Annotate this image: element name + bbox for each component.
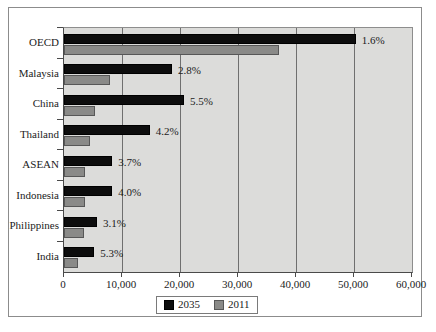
value-axis: 010,00020,00030,00040,00050,00060,000 xyxy=(63,272,412,298)
category-tick-7 xyxy=(57,241,63,242)
x-tick-label-60000: 60,000 xyxy=(396,279,426,290)
category-label-asean: ASEAN xyxy=(7,159,59,170)
chart-legend: 2035 2011 xyxy=(156,296,258,314)
bar-2011-indonesia[interactable] xyxy=(64,197,85,207)
category-label-china: China xyxy=(7,98,59,109)
bar-chart: 1.6%2.8%5.5%4.2%3.7%4.0%3.1%5.3% OECDMal… xyxy=(9,8,423,318)
category-tick-2 xyxy=(57,88,63,89)
bar-annotation-philippines: 3.1% xyxy=(103,218,126,229)
x-tick-0 xyxy=(63,272,64,277)
category-axis: OECDMalaysiaChinaThailandASEANIndonesiaP… xyxy=(9,27,59,271)
category-label-indonesia: Indonesia xyxy=(7,190,59,201)
category-label-malaysia: Malaysia xyxy=(7,68,59,79)
x-tick-label-10000: 10,000 xyxy=(106,279,136,290)
x-tick-label-20000: 20,000 xyxy=(164,279,194,290)
bar-2035-asean[interactable] xyxy=(64,156,112,166)
x-tick-60000 xyxy=(411,272,412,277)
category-label-thailand: Thailand xyxy=(7,129,59,140)
x-tick-label-0: 0 xyxy=(60,279,66,290)
x-tick-40000 xyxy=(295,272,296,277)
bar-2035-indonesia[interactable] xyxy=(64,186,112,196)
bar-2035-malaysia[interactable] xyxy=(64,64,172,74)
category-tick-5 xyxy=(57,180,63,181)
bar-2035-philippines[interactable] xyxy=(64,217,97,227)
category-tick-1 xyxy=(57,58,63,59)
x-tick-30000 xyxy=(237,272,238,277)
gridline-40000 xyxy=(296,28,297,272)
bar-annotation-oecd: 1.6% xyxy=(362,35,385,46)
bar-2035-thailand[interactable] xyxy=(64,125,150,135)
bar-2011-india[interactable] xyxy=(64,258,78,268)
bar-annotation-malaysia: 2.8% xyxy=(178,65,201,76)
bar-2011-thailand[interactable] xyxy=(64,136,90,146)
x-tick-10000 xyxy=(121,272,122,277)
category-tick-3 xyxy=(57,119,63,120)
x-tick-label-30000: 30,000 xyxy=(222,279,252,290)
legend-label-2011: 2011 xyxy=(228,299,250,310)
plot-area: 1.6%2.8%5.5%4.2%3.7%4.0%3.1%5.3% xyxy=(63,27,413,273)
bar-2035-oecd[interactable] xyxy=(64,34,356,44)
bar-2035-india[interactable] xyxy=(64,247,94,257)
x-tick-50000 xyxy=(353,272,354,277)
legend-swatch-icon-2011 xyxy=(214,300,224,310)
bar-annotation-indonesia: 4.0% xyxy=(118,187,141,198)
category-label-india: India xyxy=(7,251,59,262)
x-tick-20000 xyxy=(179,272,180,277)
legend-item-2035[interactable]: 2035 xyxy=(164,299,200,310)
x-tick-label-40000: 40,000 xyxy=(280,279,310,290)
gridline-50000 xyxy=(354,28,355,272)
bar-2011-malaysia[interactable] xyxy=(64,75,110,85)
bar-2035-china[interactable] xyxy=(64,95,184,105)
bar-2011-china[interactable] xyxy=(64,106,95,116)
bar-2011-asean[interactable] xyxy=(64,167,85,177)
category-label-oecd: OECD xyxy=(7,37,59,48)
bar-annotation-thailand: 4.2% xyxy=(156,126,179,137)
gridline-30000 xyxy=(238,28,239,272)
legend-label-2035: 2035 xyxy=(178,299,200,310)
x-tick-label-50000: 50,000 xyxy=(338,279,368,290)
figure-frame: 1.6%2.8%5.5%4.2%3.7%4.0%3.1%5.3% OECDMal… xyxy=(8,7,422,317)
category-label-philippines: Philippines xyxy=(7,220,59,231)
category-tick-6 xyxy=(57,210,63,211)
bar-annotation-china: 5.5% xyxy=(190,96,213,107)
bar-annotation-asean: 3.7% xyxy=(118,157,141,168)
bar-2011-oecd[interactable] xyxy=(64,45,279,55)
bar-annotation-india: 5.3% xyxy=(100,248,123,259)
legend-swatch-icon-2035 xyxy=(164,300,174,310)
category-tick-0 xyxy=(57,27,63,28)
category-tick-4 xyxy=(57,149,63,150)
legend-item-2011[interactable]: 2011 xyxy=(214,299,250,310)
bar-2011-philippines[interactable] xyxy=(64,228,84,238)
